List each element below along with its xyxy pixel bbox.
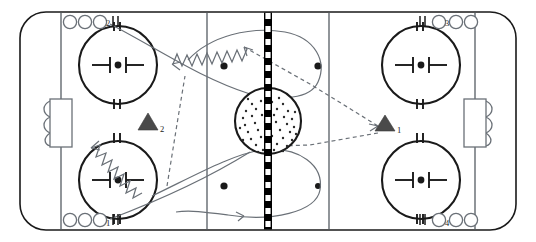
player-circle xyxy=(63,213,76,226)
hockey-rink-diagram: 2 1 2 1 3 4 xyxy=(0,0,536,242)
player-circle xyxy=(449,15,462,28)
player-circle xyxy=(464,213,477,226)
player-circle xyxy=(63,15,76,28)
player-circle xyxy=(78,213,91,226)
player-group-3-label: 3 xyxy=(445,18,449,28)
player-circle xyxy=(78,15,91,28)
goal-net-right xyxy=(464,99,486,147)
player-circle xyxy=(93,213,106,226)
cone-2-label: 2 xyxy=(160,124,164,134)
rink-svg: 2 1 2 1 3 4 xyxy=(0,0,536,242)
player-circle xyxy=(432,213,445,226)
player-circle xyxy=(464,15,477,28)
player-group-2-label: 2 xyxy=(106,18,110,28)
player-circle xyxy=(93,15,106,28)
goal-net-left xyxy=(50,99,72,147)
player-circle xyxy=(449,213,462,226)
player-group-1-label: 1 xyxy=(106,218,110,228)
neutral-dot-top-left xyxy=(220,62,227,69)
cone-1-label: 1 xyxy=(397,125,401,135)
player-circle xyxy=(432,15,445,28)
neutral-dot-bottom-left xyxy=(220,182,227,189)
